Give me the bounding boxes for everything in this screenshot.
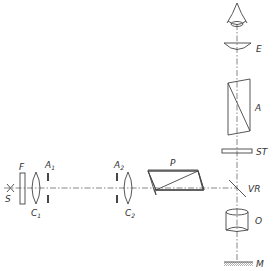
label-filter: F <box>19 162 25 172</box>
aperture-2: A2 <box>113 160 124 203</box>
vertical-reflector: VR <box>229 180 260 197</box>
label-collector-lens-1: C1 <box>31 208 41 219</box>
label-objective: O <box>255 216 262 226</box>
label-specimen: M <box>256 259 264 269</box>
collector-lens-1: C1 <box>31 172 41 219</box>
label-source: S <box>5 194 11 204</box>
label-aperture-1: A1 <box>44 160 55 171</box>
compensator-plate: ST <box>222 147 269 157</box>
label-collector-lens-2: C2 <box>125 208 135 219</box>
optical-diagram: S F C1 A1 A2 C2 P <box>0 0 273 271</box>
label-vertical-reflector: VR <box>248 184 260 194</box>
specimen-surface: M <box>224 259 264 269</box>
label-analyzer: A <box>254 103 261 113</box>
objective-lens: O <box>226 209 262 232</box>
eye-icon <box>227 3 247 27</box>
label-compensator: ST <box>256 147 269 157</box>
eyepiece-lens: E <box>224 43 262 54</box>
filter: F <box>19 162 25 204</box>
light-source: S <box>5 184 14 204</box>
polarizer-prism: P <box>148 158 204 195</box>
analyzer-prism: A <box>228 79 261 135</box>
aperture-1: A1 <box>44 160 55 203</box>
label-polarizer: P <box>170 158 176 168</box>
label-eyepiece: E <box>256 44 262 54</box>
collector-lens-2: C2 <box>124 172 135 219</box>
label-aperture-2: A2 <box>113 160 124 171</box>
